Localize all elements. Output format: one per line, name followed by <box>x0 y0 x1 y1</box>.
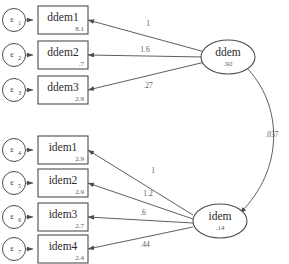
loading-label-idem-idem1: 1 <box>151 166 155 175</box>
observed-label-idem4: idem4 <box>49 240 78 252</box>
observed-node-ddem3[interactable]: ddem3 2.9 <box>38 76 88 104</box>
observed-value-ddem2: .7 <box>79 60 85 68</box>
observed-value-idem2: 2.9 <box>75 188 84 196</box>
latent-node-ddem[interactable]: ddem .92 <box>201 40 255 74</box>
observed-value-idem3: 2.7 <box>75 222 84 230</box>
observed-label-ddem1: ddem1 <box>47 11 79 23</box>
error-label-ddem3: ε <box>10 84 14 94</box>
error-node-idem1[interactable]: ε 4 <box>3 139 26 162</box>
loading-path-idem-idem3 <box>88 217 193 223</box>
error-label-idem4: ε <box>10 243 14 253</box>
observed-value-idem4: 2.4 <box>75 254 84 262</box>
loading-label-ddem-ddem3: .27 <box>143 81 153 90</box>
sem-path-diagram: ε 1 ε 2 ε 3 ε 4 ε 5 ε 6 ε <box>0 0 289 264</box>
observed-node-idem2[interactable]: idem2 2.9 <box>38 169 88 197</box>
loading-label-ddem-ddem1: 1 <box>146 19 150 28</box>
loading-label-idem-idem3: .6 <box>140 208 146 217</box>
error-subscript-ddem3: 3 <box>18 90 21 96</box>
error-subscript-ddem1: 1 <box>18 20 21 26</box>
latent-value-idem: .14 <box>216 224 225 232</box>
error-label-ddem2: ε <box>10 49 14 59</box>
error-node-ddem3[interactable]: ε 3 <box>3 79 26 102</box>
error-subscript-idem3: 6 <box>18 217 21 223</box>
covariance-label-ddem-idem: .037 <box>265 130 278 139</box>
loading-path-idem-idem1 <box>88 150 193 215</box>
diagram-canvas: ε 1 ε 2 ε 3 ε 4 ε 5 ε 6 ε <box>0 0 289 264</box>
observed-node-idem1[interactable]: idem1 2.9 <box>38 136 88 164</box>
observed-value-ddem1: 8.1 <box>75 25 84 33</box>
error-node-idem3[interactable]: ε 6 <box>3 206 26 229</box>
error-label-idem3: ε <box>10 211 14 221</box>
observed-label-idem3: idem3 <box>49 208 78 220</box>
error-subscript-idem1: 4 <box>18 150 21 156</box>
error-label-idem2: ε <box>10 177 14 187</box>
observed-node-idem4[interactable]: idem4 2.4 <box>38 235 88 263</box>
error-subscript-idem2: 5 <box>18 183 21 189</box>
latent-label-ddem: ddem <box>215 46 241 58</box>
error-subscript-idem4: 7 <box>18 249 21 255</box>
observed-value-idem1: 2.9 <box>75 155 84 163</box>
latent-node-idem[interactable]: idem .14 <box>193 204 247 238</box>
error-node-ddem1[interactable]: ε 1 <box>3 9 26 32</box>
loading-path-ddem-ddem2 <box>88 55 205 57</box>
loading-label-idem-idem2: 1.2 <box>143 189 153 198</box>
error-label-idem1: ε <box>10 144 14 154</box>
error-node-ddem2[interactable]: ε 2 <box>3 44 26 67</box>
error-node-idem2[interactable]: ε 5 <box>3 172 26 195</box>
error-subscript-ddem2: 2 <box>18 55 21 61</box>
covariance-curve-ddem-idem <box>240 66 274 213</box>
loading-label-idem-idem4: .44 <box>140 240 150 249</box>
latent-value-ddem: .92 <box>224 60 233 68</box>
observed-label-ddem3: ddem3 <box>47 81 79 93</box>
observed-label-idem1: idem1 <box>49 141 78 153</box>
observed-label-idem2: idem2 <box>49 174 78 186</box>
error-label-ddem1: ε <box>10 14 14 24</box>
loading-label-ddem-ddem2: 1.6 <box>140 45 150 54</box>
observed-node-ddem2[interactable]: ddem2 .7 <box>38 41 88 69</box>
latent-label-idem: idem <box>209 210 232 222</box>
observed-node-idem3[interactable]: idem3 2.7 <box>38 203 88 231</box>
observed-label-ddem2: ddem2 <box>47 46 79 58</box>
observed-node-ddem1[interactable]: ddem1 8.1 <box>38 6 88 34</box>
observed-value-ddem3: 2.9 <box>75 95 84 103</box>
error-node-idem4[interactable]: ε 7 <box>3 238 26 261</box>
